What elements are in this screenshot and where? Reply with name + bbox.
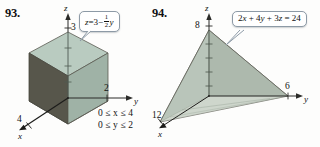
callout-93-tail-layer bbox=[0, 0, 160, 147]
x-axis-label-93: x bbox=[18, 131, 22, 141]
y-tick-label-2: 2 bbox=[104, 83, 109, 93]
constraints-93: 0 ≤ x ≤ 4 0 ≤ y ≤ 2 bbox=[98, 108, 133, 131]
callout-tail-94 bbox=[226, 30, 244, 45]
y-axis-label-94: y bbox=[304, 94, 308, 104]
y-axis-label-93: y bbox=[134, 96, 138, 106]
z-tick-label-3: 3 bbox=[71, 22, 76, 32]
constraint-x: 0 ≤ x ≤ 4 bbox=[98, 108, 133, 120]
callout-94-tail-layer bbox=[152, 0, 320, 147]
callout-tail-93 bbox=[80, 31, 91, 41]
x-tick-label-4: 4 bbox=[17, 114, 22, 124]
x-axis-label-94: x bbox=[158, 129, 162, 139]
y-tick-label-6: 6 bbox=[285, 81, 290, 91]
z-axis-label-93: z bbox=[64, 3, 68, 13]
z-tick-label-8: 8 bbox=[195, 20, 200, 30]
x-tick-label-12: 12 bbox=[152, 110, 162, 120]
figure-94: 94. bbox=[152, 0, 320, 147]
z-axis-label-94: z bbox=[205, 3, 209, 13]
figure-93: 93. bbox=[0, 0, 160, 147]
constraint-y: 0 ≤ y ≤ 2 bbox=[98, 120, 133, 132]
exercise-page: 93. bbox=[0, 0, 320, 147]
